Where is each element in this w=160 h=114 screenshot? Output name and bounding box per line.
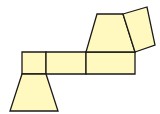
rect-left-square: [22, 52, 46, 74]
net-diagram: [0, 0, 160, 114]
rect-right: [86, 52, 135, 74]
rect-middle: [46, 52, 86, 74]
trapezoid-bottom: [10, 74, 58, 111]
